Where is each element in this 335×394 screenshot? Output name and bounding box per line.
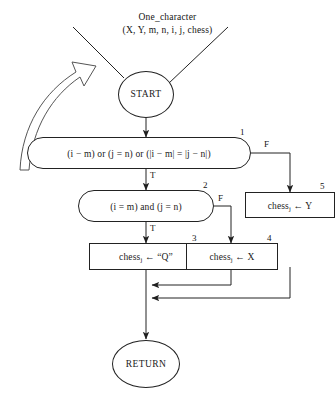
process-node-5-prefix: chess [268,201,289,211]
process-node-5: chessj ← Y [245,192,335,218]
step-number-4: 4 [267,234,272,243]
step-number-3: 3 [192,234,197,243]
process-node-3-prefix: chess [119,252,140,262]
terminal-start-label: START [119,89,173,99]
branch-label-2-false: F [218,194,223,203]
terminal-return: RETURN [112,340,180,388]
process-node-4-suffix: ← X [233,252,255,262]
flowchart-canvas: One_character (X, Y, m, n, i, j, chess) [0,0,335,394]
process-node-3-suffix: ← “Q” [142,252,172,262]
terminal-start: START [118,71,174,118]
decision-node-2-condition: (i = m) and (j = n) [79,202,213,212]
branch-label-1-false: F [264,140,269,149]
process-node-5-suffix: ← Y [291,201,312,211]
decision-node-1-condition: (i − m) or (j = n) or (|i − m| = |j − n|… [28,149,250,159]
process-node-4-statement: chessj ← X [187,252,277,263]
process-node-5-statement: chessj ← Y [246,201,334,212]
process-node-4: chessj ← X [186,243,278,270]
branch-label-2-true: T [150,224,156,233]
terminal-return-label: RETURN [113,359,179,369]
decision-node-1: (i − m) or (j = n) or (|i − m| = |j − n|… [27,137,251,169]
branch-label-1-true: T [150,171,156,180]
process-node-4-prefix: chess [209,252,230,262]
step-number-1: 1 [240,128,245,137]
step-number-2: 2 [203,181,208,190]
step-number-5: 5 [320,182,325,191]
decision-node-2: (i = m) and (j = n) [78,190,214,222]
